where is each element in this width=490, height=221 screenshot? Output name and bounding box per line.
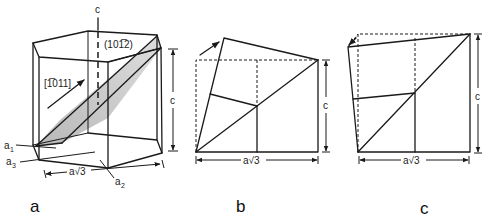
direction-label: [1̅011]	[44, 78, 71, 89]
height-label: c	[323, 100, 328, 111]
height-label: c	[475, 91, 480, 102]
c-axis-label: c	[95, 4, 100, 15]
rotation-arrow	[349, 38, 356, 45]
svg-text:1: 1	[10, 146, 14, 153]
panel-b-section: a√3 c b	[196, 38, 330, 216]
width-label: a√3	[403, 155, 420, 166]
height-label: c	[170, 95, 175, 106]
plane-label: (101̅2)	[104, 39, 133, 50]
panel-a-hexagonal-prism: c [1̅011] (101̅2) a 1 a 3 a 2 a√3 c a	[4, 4, 178, 216]
svg-text:2: 2	[121, 182, 125, 189]
panel-a-label: a	[30, 197, 40, 216]
width-dimension	[46, 172, 67, 174]
rotation-arrow	[200, 42, 219, 55]
panel-c-label: c	[420, 199, 429, 218]
svg-text:3: 3	[12, 162, 16, 169]
width-label: a√3	[243, 155, 260, 166]
a3-axis	[20, 152, 95, 162]
width-label: a√3	[69, 166, 86, 177]
crystal-twinning-diagram: c [1̅011] (101̅2) a 1 a 3 a 2 a√3 c a	[0, 0, 490, 221]
panel-b-label: b	[236, 197, 245, 216]
panel-c-section: a√3 c c	[348, 34, 482, 218]
